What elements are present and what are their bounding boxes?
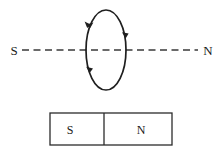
bar-magnet-label-south: S	[67, 123, 74, 137]
bar-magnet-group: S N	[50, 113, 172, 145]
loop-arrow-right-icon	[122, 32, 129, 38]
axis-label-north: N	[203, 43, 213, 58]
diagram-canvas: S N S N	[0, 0, 223, 154]
axis-label-south: S	[10, 43, 17, 58]
magnetic-axis-group: S N	[10, 43, 213, 58]
loop-arrow-bottom-left-icon	[86, 67, 93, 73]
physics-diagram: S N S N	[0, 0, 223, 154]
bar-magnet-label-north: N	[137, 123, 146, 137]
